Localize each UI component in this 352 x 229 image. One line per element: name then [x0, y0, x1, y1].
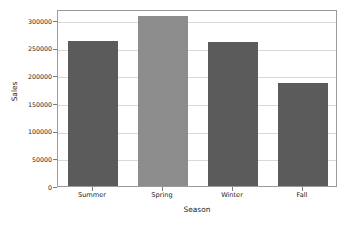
y-axis-tick-label: 100000 [4, 128, 52, 135]
x-axis-tick-label: Summer [78, 191, 106, 200]
x-axis-tick-label: Winter [221, 191, 243, 200]
bar-fall [278, 83, 328, 186]
y-axis-tick-label: 300000 [4, 18, 52, 25]
y-axis-tick [53, 49, 57, 50]
y-axis-tick [53, 159, 57, 160]
plot-area [57, 10, 337, 187]
y-axis-tick [53, 104, 57, 105]
x-axis-title: Season [57, 205, 337, 214]
y-axis-tick-label: 250000 [4, 45, 52, 52]
y-axis-tick [53, 187, 57, 188]
y-axis-tick-label: 50000 [4, 156, 52, 163]
x-axis-tick-label: Spring [151, 191, 172, 200]
x-axis-tick-label: Fall [297, 191, 308, 200]
y-axis-tick [53, 76, 57, 77]
y-axis-tick [53, 21, 57, 22]
bars-group [58, 11, 336, 186]
bar-winter [208, 42, 258, 186]
y-axis-tick-label: 0 [4, 184, 52, 191]
bar-spring [138, 16, 188, 186]
bar-summer [68, 41, 118, 186]
y-axis-title: Sales [10, 62, 19, 122]
y-axis-tick [53, 132, 57, 133]
bar-chart-figure: 050000100000150000200000250000300000 Sum… [0, 0, 352, 229]
y-axis-tick-labels: 050000100000150000200000250000300000 [0, 0, 52, 229]
